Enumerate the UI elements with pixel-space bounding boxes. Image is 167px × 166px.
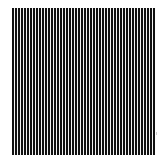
stray-mark <box>156 132 157 135</box>
vertical-stripe-grating <box>12 8 155 155</box>
